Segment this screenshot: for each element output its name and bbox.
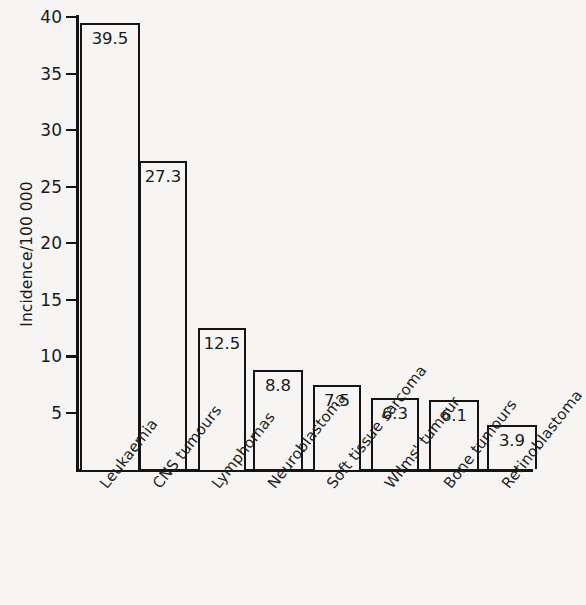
y-tick-label: 20 (2, 233, 62, 253)
y-tick-mark (66, 355, 76, 357)
y-tick-mark (66, 299, 76, 301)
y-tick-mark (66, 129, 76, 131)
y-tick-mark (66, 73, 76, 75)
bar-value-label: 8.8 (255, 376, 301, 395)
bar-value-label: 12.5 (200, 334, 244, 353)
y-tick-label: 35 (2, 64, 62, 84)
y-tick-label: 15 (2, 290, 62, 310)
y-tick-mark (66, 242, 76, 244)
bar: 39.5 (80, 23, 140, 470)
y-tick-label: 25 (2, 177, 62, 197)
y-tick-mark (66, 16, 76, 18)
y-tick-label: 5 (2, 403, 62, 423)
bar-value-label: 39.5 (82, 29, 138, 48)
y-tick-mark (66, 186, 76, 188)
y-tick-label: 30 (2, 120, 62, 140)
y-tick-label: 10 (2, 346, 62, 366)
y-axis-line (76, 15, 79, 471)
bar-value-label: 27.3 (141, 167, 185, 186)
y-tick-mark (66, 412, 76, 414)
y-tick-label: 40 (2, 7, 62, 27)
